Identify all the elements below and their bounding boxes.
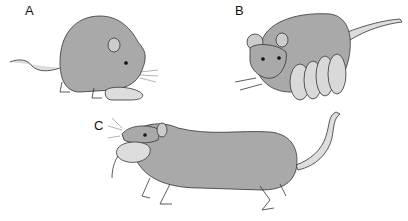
rat-c	[108, 112, 340, 210]
eye-icon	[124, 61, 127, 64]
pup-a	[105, 87, 143, 100]
figure: A B C	[0, 0, 408, 221]
pup-c	[116, 142, 150, 162]
rat-a	[10, 16, 158, 100]
illustration	[0, 0, 408, 221]
ear-icon	[108, 38, 120, 52]
rat-a-body	[60, 16, 145, 92]
rat-b	[235, 14, 402, 100]
